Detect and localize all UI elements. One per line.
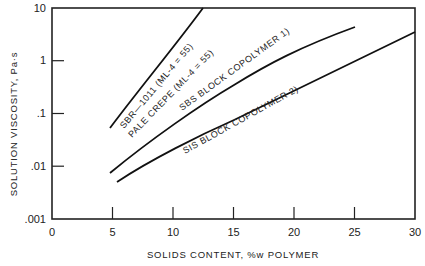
x-tick-labels: 0 5 10 15 20 25 30 xyxy=(49,226,421,238)
svg-text:0: 0 xyxy=(49,226,55,238)
viscosity-chart: 10 1 .1 .01 .001 0 5 10 15 20 25 30 SOLI… xyxy=(0,0,425,266)
svg-text:.01: .01 xyxy=(31,160,46,172)
svg-text:10: 10 xyxy=(34,2,46,14)
svg-text:1: 1 xyxy=(40,54,46,66)
y-axis-label: SOLUTION VISCOSITY, Pa·s xyxy=(8,52,19,197)
svg-text:30: 30 xyxy=(409,226,421,238)
svg-text:15: 15 xyxy=(227,226,239,238)
svg-text:.1: .1 xyxy=(37,107,46,119)
x-axis-label: SOLIDS CONTENT, %w POLYMER xyxy=(147,249,319,260)
svg-text:10: 10 xyxy=(167,226,179,238)
plot-frame xyxy=(52,8,415,219)
y-ticks xyxy=(52,61,64,167)
svg-text:5: 5 xyxy=(109,226,115,238)
svg-text:25: 25 xyxy=(348,226,360,238)
svg-text:.001: .001 xyxy=(25,213,46,225)
svg-text:20: 20 xyxy=(288,226,300,238)
y-tick-labels: 10 1 .1 .01 .001 xyxy=(25,2,46,225)
x-ticks xyxy=(113,207,355,219)
